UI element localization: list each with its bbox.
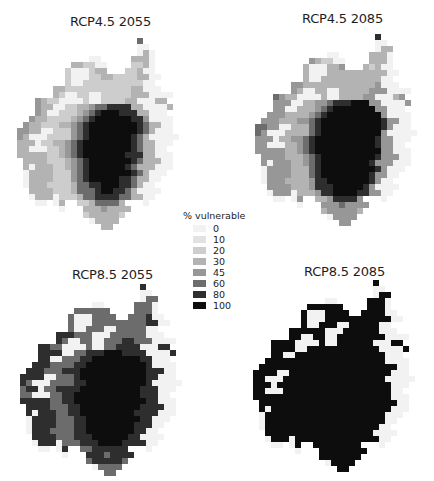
map-cell [405,136,411,142]
map-cell [167,104,173,110]
map-cell [167,140,173,146]
map-cell [44,446,50,452]
legend-item: 80 [193,289,225,299]
map-cell [143,200,149,206]
legend-item: 20 [193,245,225,255]
map-cell [158,434,164,440]
map-cell [363,202,369,208]
legend-swatch [193,258,206,265]
map-cell [116,464,122,470]
map-cell [279,196,285,202]
panel-title: RCP4.5 2085 [302,11,383,26]
map-cell [122,458,128,464]
map-cell [155,176,161,182]
map-cell [351,214,357,220]
legend-label: 80 [213,289,225,300]
legend-item: 10 [193,234,225,244]
vulnerability-map [5,38,185,230]
legend-swatch [193,269,206,276]
map-cell [170,338,176,344]
legend-item: 100 [193,300,231,310]
map-cell [381,196,387,202]
legend-swatch [193,236,206,243]
map-cell [355,454,361,460]
legend-swatch [193,291,206,298]
map-cell [295,448,301,454]
map-panel-rcp45-2055: RCP4.5 2055 [0,0,217,240]
map-cell [385,436,391,442]
map-cell [170,350,176,356]
legend-swatch [193,247,206,254]
legend-item: 30 [193,256,225,266]
map-panel-rcp85-2085: RCP8.5 2085 [217,240,434,481]
legend-label: 60 [213,278,225,289]
map-cell [297,202,303,208]
map-cell [357,208,363,214]
map-cell [107,224,113,230]
map-cell [387,190,393,196]
map-cell [146,446,152,452]
map-panel-rcp85-2055: RCP8.5 2055 [0,240,217,481]
map-cell [379,442,385,448]
legend-swatch [193,302,206,309]
map-cell [405,88,411,94]
legend-swatch [193,225,206,232]
map-cell [167,92,173,98]
map-cell [391,418,397,424]
map-cell [409,376,415,382]
map-cell [41,200,47,206]
map-cell [161,170,167,176]
map-cell [173,134,179,140]
panel-title: RCP8.5 2085 [304,264,385,279]
map-cell [403,346,409,352]
panel-title: RCP4.5 2055 [70,14,151,29]
map-cell [59,206,65,212]
legend-label: 30 [213,256,225,267]
map-cell [405,100,411,106]
map-cell [393,184,399,190]
map-cell [170,386,176,392]
map-cell [345,220,351,226]
map-cell [164,416,170,422]
vulnerability-map [241,280,421,472]
map-cell [393,70,399,76]
map-cell [391,430,397,436]
map-cell [170,410,176,416]
vulnerability-map [243,34,423,226]
map-cell [125,206,131,212]
map-cell [277,442,283,448]
map-cell [403,406,409,412]
legend-label: 20 [213,245,225,256]
legend-label: 0 [213,223,219,234]
map-cell [393,172,399,178]
map-cell [164,320,170,326]
map-panel-rcp45-2085: RCP4.5 2085 [217,0,434,240]
map-cell [62,452,68,458]
vulnerability-map [8,284,188,476]
map-cell [110,470,116,476]
map-cell [403,382,409,388]
map-cell [158,422,164,428]
legend-label: 45 [213,267,225,278]
legend-swatch [193,280,206,287]
map-cell [113,218,119,224]
map-cell [343,466,349,472]
legend-item: 45 [193,267,225,277]
map-cell [155,188,161,194]
map-cell [167,164,173,170]
map-cell [397,412,403,418]
panel-title: RCP8.5 2055 [72,267,153,282]
map-cell [361,448,367,454]
map-cell [152,440,158,446]
legend-title: % vulnerable [183,210,245,221]
map-cell [149,194,155,200]
legend-item: 0 [193,223,219,233]
map-cell [405,160,411,166]
legend-label: 10 [213,234,225,245]
legend-label: 100 [213,300,231,311]
map-cell [399,166,405,172]
map-cell [176,380,182,386]
map-cell [119,212,125,218]
map-cell [397,316,403,322]
map-cell [155,74,161,80]
